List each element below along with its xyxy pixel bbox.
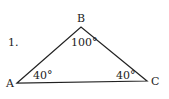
vertex-label-a: A	[6, 78, 14, 89]
angle-b: 100°	[71, 37, 98, 48]
angle-c: 40°	[116, 70, 136, 81]
angle-a: 40°	[33, 70, 53, 81]
problem-number: 1.	[8, 37, 19, 48]
vertex-label-b: B	[77, 13, 85, 24]
vertex-label-c: C	[151, 76, 159, 87]
